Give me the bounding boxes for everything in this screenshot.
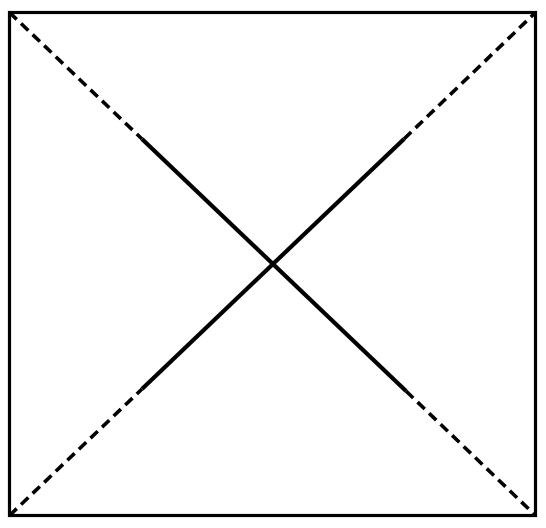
square-diagonals-diagram xyxy=(0,0,546,528)
figure-canvas xyxy=(0,0,546,528)
